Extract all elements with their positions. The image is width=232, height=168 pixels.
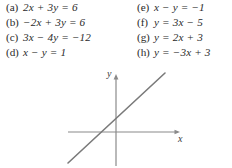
- equation-column-left: (a) 2x + 3y = 6 (b) −2x + 3y = 6 (c) 3x …: [6, 0, 124, 60]
- equation-tag: (e): [137, 0, 154, 15]
- equation-text: x − y = 1: [23, 45, 66, 60]
- equation-tag: (g): [137, 30, 154, 45]
- coordinate-graph: y x: [55, 64, 190, 168]
- equation-item: (f) y = 3x − 5: [137, 15, 232, 30]
- equation-item: (a) 2x + 3y = 6: [6, 0, 124, 15]
- equation-tag: (f): [137, 15, 154, 30]
- equation-text: x − y = −1: [154, 0, 205, 15]
- equation-list: (a) 2x + 3y = 6 (b) −2x + 3y = 6 (c) 3x …: [0, 0, 232, 64]
- equation-text: −2x + 3y = 6: [23, 15, 85, 30]
- equation-tag: (h): [137, 45, 154, 60]
- equation-item: (c) 3x − 4y = −12: [6, 30, 124, 45]
- equation-tag: (d): [6, 45, 23, 60]
- worksheet-page: (a) 2x + 3y = 6 (b) −2x + 3y = 6 (c) 3x …: [0, 0, 232, 168]
- equation-column-right: (e) x − y = −1 (f) y = 3x − 5 (g) y = 2x…: [137, 0, 232, 60]
- x-axis-label: x: [177, 133, 183, 144]
- equation-text: y = 3x − 5: [154, 15, 203, 30]
- equation-tag: (a): [6, 0, 23, 15]
- y-axis-arrow-icon: [114, 74, 119, 80]
- equation-tag: (c): [6, 30, 23, 45]
- equation-text: 2x + 3y = 6: [23, 0, 78, 15]
- equation-item: (d) x − y = 1: [6, 45, 124, 60]
- equation-tag: (b): [6, 15, 23, 30]
- equation-item: (g) y = 2x + 3: [137, 30, 232, 45]
- equation-text: y = −3x + 3: [154, 45, 211, 60]
- equation-item: (e) x − y = −1: [137, 0, 232, 15]
- equation-item: (h) y = −3x + 3: [137, 45, 232, 60]
- y-axis-label: y: [106, 68, 112, 79]
- equation-text: 3x − 4y = −12: [23, 30, 91, 45]
- equation-text: y = 2x + 3: [154, 30, 203, 45]
- equation-item: (b) −2x + 3y = 6: [6, 15, 124, 30]
